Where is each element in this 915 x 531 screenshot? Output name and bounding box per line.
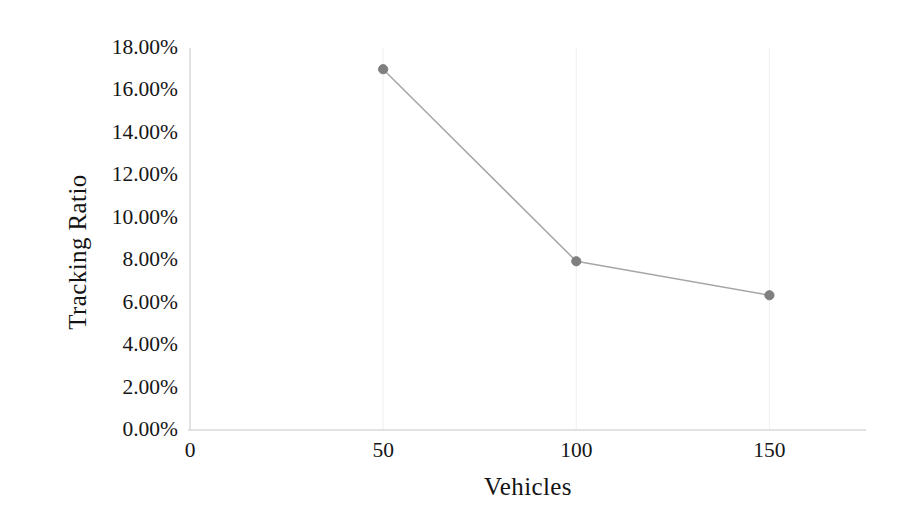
x-axis-tick-label: 150 [724,438,814,463]
chart-figure: Tracking Ratio 0.00%2.00%4.00%6.00%8.00%… [0,0,915,531]
axis-lines [188,48,866,430]
x-axis-tick-label: 0 [145,438,235,463]
x-axis-tick-label: 100 [531,438,621,463]
data-point-marker [379,65,388,74]
data-point-marker [572,257,581,266]
data-point-marker [765,291,774,300]
x-axis-tick-label: 50 [338,438,428,463]
x-axis-tick-labels: 050100150 [0,438,915,472]
gridlines [190,48,769,430]
x-axis-title-label: Vehicles [190,473,866,501]
